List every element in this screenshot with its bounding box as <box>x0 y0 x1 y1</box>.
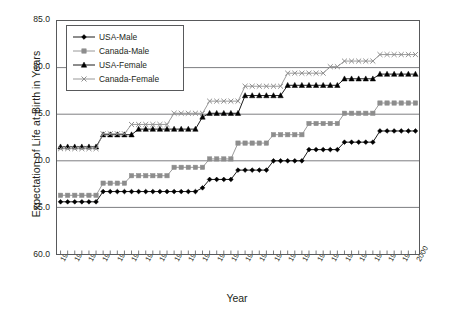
data-point <box>413 101 417 105</box>
data-point <box>122 181 126 185</box>
data-point <box>87 193 91 197</box>
data-point <box>72 199 77 204</box>
data-point <box>328 121 332 125</box>
legend-label: Canada-Female <box>97 74 159 84</box>
data-point <box>222 157 226 161</box>
data-point <box>144 174 148 178</box>
data-point <box>87 199 92 204</box>
data-point <box>314 147 319 152</box>
life-expectancy-chart: Expectation of Life at Birth in Years Ye… <box>0 0 456 313</box>
chart-legend: USA-Male Canada-Male USA-Female Canada-F… <box>66 25 184 91</box>
data-point <box>293 133 297 137</box>
data-point <box>221 177 226 182</box>
legend-label: Canada-Male <box>97 46 149 56</box>
data-point <box>278 158 283 163</box>
data-point <box>342 111 346 115</box>
data-point <box>321 147 326 152</box>
legend-item-canada-female: Canada-Female <box>71 72 178 86</box>
series-usa-male <box>58 129 418 205</box>
data-point <box>328 147 333 152</box>
legend-item-usa-female: USA-Female <box>71 58 178 72</box>
data-point <box>406 101 410 105</box>
data-point <box>257 141 261 145</box>
data-point <box>299 158 304 163</box>
legend-item-canada-male: Canada-Male <box>71 44 178 58</box>
data-point <box>399 101 403 105</box>
data-point <box>150 189 155 194</box>
data-point <box>243 141 247 145</box>
data-point <box>73 193 77 197</box>
data-point <box>158 174 162 178</box>
data-point <box>172 189 177 194</box>
legend-label: USA-Female <box>97 60 147 70</box>
data-point <box>356 111 360 115</box>
data-point <box>406 129 411 134</box>
data-point <box>356 140 361 145</box>
data-point <box>307 147 312 152</box>
data-point <box>129 189 134 194</box>
data-point <box>229 157 233 161</box>
data-point <box>179 165 183 169</box>
data-point <box>115 189 120 194</box>
data-point <box>392 101 396 105</box>
data-point <box>200 165 204 169</box>
data-point <box>364 111 368 115</box>
data-point <box>250 168 255 173</box>
data-point <box>193 189 198 194</box>
data-point <box>378 101 382 105</box>
data-point <box>349 140 354 145</box>
data-point <box>115 181 119 185</box>
data-point <box>271 133 275 137</box>
data-point <box>186 189 191 194</box>
data-point <box>80 193 84 197</box>
data-point <box>158 189 163 194</box>
data-point <box>371 111 375 115</box>
data-point <box>65 193 69 197</box>
data-point <box>193 165 197 169</box>
usa-female-marker-icon <box>71 59 97 71</box>
data-point <box>378 129 383 134</box>
data-point <box>58 199 63 204</box>
data-point <box>101 181 105 185</box>
data-point <box>108 181 112 185</box>
data-point <box>136 174 140 178</box>
data-point <box>385 101 389 105</box>
data-point <box>58 193 62 197</box>
data-point <box>172 165 176 169</box>
data-point <box>94 193 98 197</box>
canada-female-marker-icon <box>71 73 97 85</box>
data-point <box>165 174 169 178</box>
data-point <box>136 189 141 194</box>
data-point <box>165 189 170 194</box>
data-point <box>292 158 297 163</box>
data-point <box>399 129 404 134</box>
data-point <box>215 157 219 161</box>
data-point <box>278 133 282 137</box>
data-point <box>314 121 318 125</box>
data-point <box>349 111 353 115</box>
data-point <box>186 165 190 169</box>
legend-label: USA-Male <box>97 32 137 42</box>
data-point <box>79 199 84 204</box>
data-point <box>122 189 127 194</box>
data-point <box>243 168 248 173</box>
data-point <box>321 121 325 125</box>
canada-male-marker-icon <box>71 45 97 57</box>
data-point <box>151 174 155 178</box>
data-point <box>179 189 184 194</box>
data-point <box>250 141 254 145</box>
data-point <box>214 177 219 182</box>
usa-male-marker-icon <box>71 31 97 43</box>
data-point <box>300 133 304 137</box>
data-point <box>82 49 86 53</box>
data-point <box>82 35 87 40</box>
data-point <box>370 140 375 145</box>
legend-item-usa-male: USA-Male <box>71 30 178 44</box>
data-point <box>129 174 133 178</box>
data-point <box>65 199 70 204</box>
data-point <box>285 133 289 137</box>
data-point <box>236 141 240 145</box>
data-point <box>264 141 268 145</box>
data-point <box>385 129 390 134</box>
data-point <box>307 121 311 125</box>
